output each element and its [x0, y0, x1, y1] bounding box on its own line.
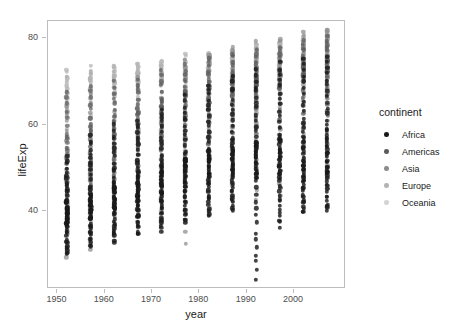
scatter-point [65, 194, 69, 198]
scatter-point [136, 98, 140, 102]
scatter-point [302, 79, 306, 83]
scatter-point [278, 92, 282, 96]
x-tick-label: 1980 [188, 294, 208, 304]
legend-item-oceania[interactable]: Oceania [378, 194, 464, 211]
scatter-point [207, 63, 211, 67]
legend: continent AfricaAmericasAsiaEuropeOceani… [378, 106, 464, 211]
chart-root: 195019601970198019902000 406080 year lif… [0, 0, 465, 331]
x-axis-title: year [47, 308, 345, 320]
scatter-point [325, 203, 329, 207]
scatter-point [302, 125, 306, 129]
scatter-point [254, 206, 258, 210]
x-tick-mark [104, 289, 105, 293]
legend-item-europe[interactable]: Europe [378, 177, 464, 194]
scatter-point [136, 153, 140, 157]
legend-dot-icon [384, 166, 389, 171]
y-axis-title: lifeExp [16, 100, 28, 220]
scatter-point [65, 159, 69, 163]
scatter-point [183, 242, 187, 246]
scatter-point [302, 100, 306, 104]
legend-title: continent [378, 106, 464, 118]
scatter-point [207, 130, 211, 134]
x-tick-mark [151, 289, 152, 293]
scatter-point [136, 91, 140, 95]
scatter-point [254, 237, 258, 241]
scatter-point [277, 120, 281, 124]
scatter-point [301, 86, 305, 90]
scatter-point [278, 97, 282, 101]
scatter-point [160, 211, 164, 215]
scatter-point [325, 159, 329, 163]
scatter-point [65, 154, 69, 158]
scatter-point [277, 189, 281, 193]
scatter-point [112, 166, 116, 170]
legend-item-americas[interactable]: Americas [378, 143, 464, 160]
x-tick-mark [246, 289, 247, 293]
scatter-point [159, 83, 163, 87]
scatter-point [136, 83, 140, 87]
x-tick-mark [198, 289, 199, 293]
scatter-point [112, 154, 116, 158]
scatter-point [88, 133, 92, 137]
legend-item-africa[interactable]: Africa [378, 126, 464, 143]
x-tick-mark [293, 289, 294, 293]
legend-label: Asia [402, 164, 420, 174]
scatter-point [89, 222, 93, 226]
scatter-point [230, 203, 234, 207]
x-tick-label: 2000 [283, 294, 303, 304]
scatter-point [278, 225, 282, 229]
scatter-point [89, 148, 93, 152]
legend-key [378, 132, 395, 137]
legend-key [378, 200, 395, 205]
scatter-points-layer [48, 21, 344, 287]
scatter-point [254, 220, 258, 224]
scatter-point [160, 154, 164, 158]
legend-label: Americas [402, 147, 440, 157]
x-tick-mark [56, 289, 57, 293]
scatter-point [253, 253, 257, 257]
scatter-point [254, 245, 258, 249]
scatter-point [254, 200, 258, 204]
x-tick-label: 1970 [141, 294, 161, 304]
scatter-point [254, 268, 258, 272]
legend-key [378, 183, 395, 188]
scatter-point [325, 107, 329, 111]
scatter-point [112, 141, 116, 145]
y-tick-mark [42, 210, 46, 211]
legend-items: AfricaAmericasAsiaEuropeOceania [378, 126, 464, 211]
scatter-point [160, 142, 164, 146]
legend-dot-icon [384, 183, 389, 188]
scatter-point [302, 33, 306, 37]
scatter-point [65, 116, 69, 120]
scatter-point [136, 213, 140, 217]
scatter-point [112, 85, 116, 89]
scatter-point [278, 113, 282, 117]
scatter-point [325, 79, 329, 83]
scatter-point [207, 207, 211, 211]
x-tick-label: 1990 [236, 294, 256, 304]
scatter-point [325, 122, 329, 126]
scatter-point [65, 140, 69, 144]
legend-label: Europe [402, 181, 431, 191]
scatter-point [183, 129, 187, 133]
x-tick-label: 1960 [94, 294, 114, 304]
scatter-point [183, 184, 187, 188]
scatter-point [254, 135, 258, 139]
scatter-point [231, 118, 235, 122]
scatter-point [278, 208, 282, 212]
scatter-point [65, 124, 69, 128]
scatter-point [254, 231, 258, 235]
scatter-point [183, 200, 187, 204]
legend-dot-icon [384, 149, 389, 154]
scatter-point [254, 125, 258, 129]
y-tick-label: 80 [16, 32, 38, 42]
scatter-point [277, 203, 281, 207]
x-tick-label: 1950 [46, 294, 66, 304]
legend-dot-icon [384, 200, 389, 205]
legend-item-asia[interactable]: Asia [378, 160, 464, 177]
legend-label: Africa [402, 130, 425, 140]
scatter-point [254, 192, 258, 196]
legend-key [378, 166, 395, 171]
scatter-point [278, 102, 282, 106]
plot-panel [47, 20, 345, 288]
